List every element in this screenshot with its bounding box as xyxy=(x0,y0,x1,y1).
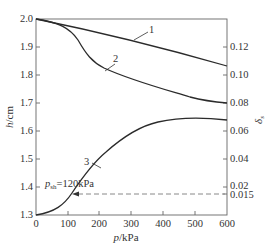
svg-text:1.6: 1.6 xyxy=(20,125,33,136)
svg-text:1.5: 1.5 xyxy=(20,153,33,164)
curve-3-label: 3 xyxy=(84,156,89,167)
y-right-axis-tick-labels: 0.015 0.02 0.04 0.06 0.08 0.10 0.12 xyxy=(230,41,254,200)
svg-text:600: 600 xyxy=(219,218,235,229)
y-left-axis-label: h/cm xyxy=(3,106,15,128)
svg-text:1.8: 1.8 xyxy=(20,69,33,80)
svg-text:1.4: 1.4 xyxy=(20,181,34,192)
curve-2-label: 2 xyxy=(113,53,118,64)
x-axis-tick-labels: 0 100 200 300 400 500 600 xyxy=(33,218,235,229)
svg-text:0: 0 xyxy=(33,218,38,229)
svg-text:100: 100 xyxy=(60,218,76,229)
curve-1-label: 1 xyxy=(149,24,154,35)
svg-text:2.0: 2.0 xyxy=(20,13,33,24)
y-left-axis-tick-labels: 1.3 1.4 1.5 1.6 1.7 1.8 1.9 2.0 xyxy=(20,13,34,220)
curve-3 xyxy=(36,118,227,215)
x-axis-label: p/kPa xyxy=(112,231,138,243)
x-axis-ticks xyxy=(68,211,195,215)
svg-text:0.06: 0.06 xyxy=(230,125,248,136)
svg-text:0.10: 0.10 xyxy=(230,69,248,80)
svg-text:1.3: 1.3 xyxy=(20,209,33,220)
chart: 0 100 200 300 400 500 600 1.3 1.4 1.5 1.… xyxy=(0,0,270,248)
svg-text:0.02: 0.02 xyxy=(230,180,248,191)
y-right-axis-label: δs xyxy=(252,116,266,124)
svg-text:1.9: 1.9 xyxy=(20,41,33,52)
svg-text:0.08: 0.08 xyxy=(230,97,248,108)
svg-text:300: 300 xyxy=(123,218,139,229)
curve-1 xyxy=(36,19,227,66)
svg-text:400: 400 xyxy=(155,218,171,229)
svg-text:500: 500 xyxy=(187,218,203,229)
curve-1-leader xyxy=(134,32,148,40)
y-left-axis-ticks xyxy=(36,47,40,187)
svg-text:1.7: 1.7 xyxy=(20,97,33,108)
psh-annotation: psh=120kPa xyxy=(44,178,94,191)
curve-2 xyxy=(36,19,227,103)
svg-text:200: 200 xyxy=(91,218,107,229)
svg-text:0.04: 0.04 xyxy=(230,153,249,164)
svg-text:0.12: 0.12 xyxy=(230,41,248,52)
